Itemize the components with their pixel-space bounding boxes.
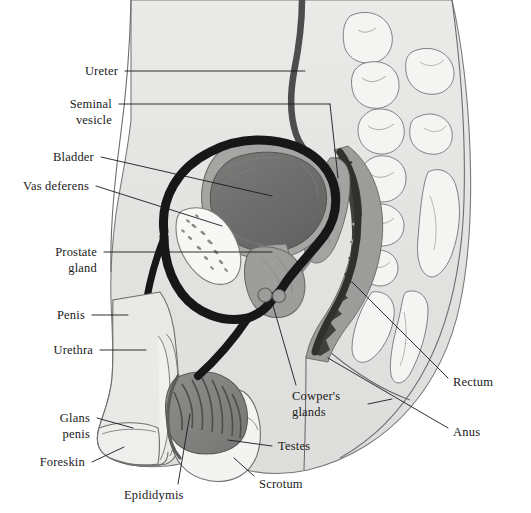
label-anus: Anus bbox=[453, 425, 480, 439]
label-ureter: Ureter bbox=[85, 64, 119, 78]
label-penis: Penis bbox=[57, 308, 85, 322]
label-rectum: Rectum bbox=[453, 375, 493, 389]
label-seminal-vesicle-line2: vesicle bbox=[76, 113, 112, 127]
label-vas-deferens: Vas deferens bbox=[23, 179, 89, 193]
label-epididymis: Epididymis bbox=[124, 488, 184, 502]
label-seminal-vesicle-line1: Seminal bbox=[70, 97, 113, 111]
label-testes: Testes bbox=[278, 439, 310, 453]
label-prostate-gland-line1: Prostate bbox=[55, 245, 97, 259]
label-foreskin: Foreskin bbox=[40, 455, 86, 469]
label-glans-penis-line1: Glans bbox=[60, 411, 90, 425]
label-urethra: Urethra bbox=[53, 343, 93, 357]
label-bladder: Bladder bbox=[53, 150, 95, 164]
label-glans-penis-line2: penis bbox=[63, 427, 90, 441]
glans-penis bbox=[97, 423, 159, 465]
label-cowpers-glands-line1: Cowper's bbox=[292, 389, 340, 403]
sagittal-section-illustration: Ureter Seminal vesicle Bladder Vas defer… bbox=[0, 0, 531, 513]
label-cowpers-glands-line2: glands bbox=[292, 405, 326, 419]
label-prostate-gland-line2: gland bbox=[68, 261, 97, 275]
label-scrotum: Scrotum bbox=[259, 477, 303, 491]
anatomy-diagram: Ureter Seminal vesicle Bladder Vas defer… bbox=[0, 0, 531, 513]
